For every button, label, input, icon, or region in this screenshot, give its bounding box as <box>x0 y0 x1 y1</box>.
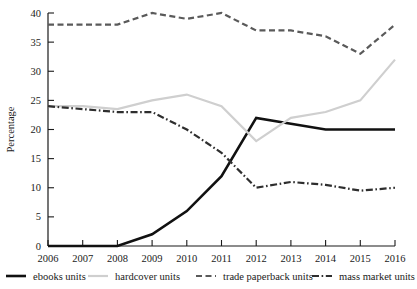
y-tick-label: 0 <box>36 241 41 252</box>
y-tick-label: 40 <box>31 8 42 19</box>
y-tick-label: 20 <box>31 124 42 135</box>
x-tick-label: 2016 <box>385 253 406 264</box>
series-line-mass-market-units <box>48 106 395 190</box>
y-tick-label: 5 <box>36 211 41 222</box>
x-tick-label: 2013 <box>280 253 301 264</box>
y-axis: 0510152025303540 <box>31 8 55 252</box>
line-chart: 0510152025303540 20062007200820092010201… <box>0 0 417 289</box>
legend-label-trade-paperback-units: trade paperback units <box>223 271 313 282</box>
y-tick-label: 25 <box>31 95 42 106</box>
legend-label-hardcover-units: hardcover units <box>115 271 180 282</box>
x-tick-label: 2009 <box>142 253 163 264</box>
x-axis: 2006200720082009201020112012201320142015… <box>38 240 406 264</box>
y-tick-label: 30 <box>31 66 42 77</box>
x-tick-label: 2010 <box>176 253 197 264</box>
legend-label-ebooks-units: ebooks units <box>33 271 86 282</box>
x-tick-label: 2011 <box>211 253 232 264</box>
y-tick-label: 10 <box>31 182 42 193</box>
x-tick-label: 2006 <box>38 253 59 264</box>
y-tick-label: 15 <box>31 153 42 164</box>
chart-legend: ebooks unitshardcover unitstrade paperba… <box>6 271 415 282</box>
legend-label-mass-market-units: mass market units <box>339 271 415 282</box>
y-axis-title: Percentage <box>5 106 16 152</box>
x-tick-label: 2008 <box>107 253 128 264</box>
x-tick-label: 2012 <box>246 253 267 264</box>
series-layer <box>48 13 395 246</box>
chart-canvas: 0510152025303540 20062007200820092010201… <box>0 0 417 289</box>
x-tick-label: 2015 <box>350 253 371 264</box>
series-line-ebooks-units <box>48 118 395 246</box>
y-axis-label: Percentage <box>5 106 16 152</box>
y-tick-label: 35 <box>31 37 42 48</box>
x-tick-label: 2007 <box>72 253 93 264</box>
x-tick-label: 2014 <box>315 253 337 264</box>
series-line-trade-paperback-units <box>48 13 395 54</box>
